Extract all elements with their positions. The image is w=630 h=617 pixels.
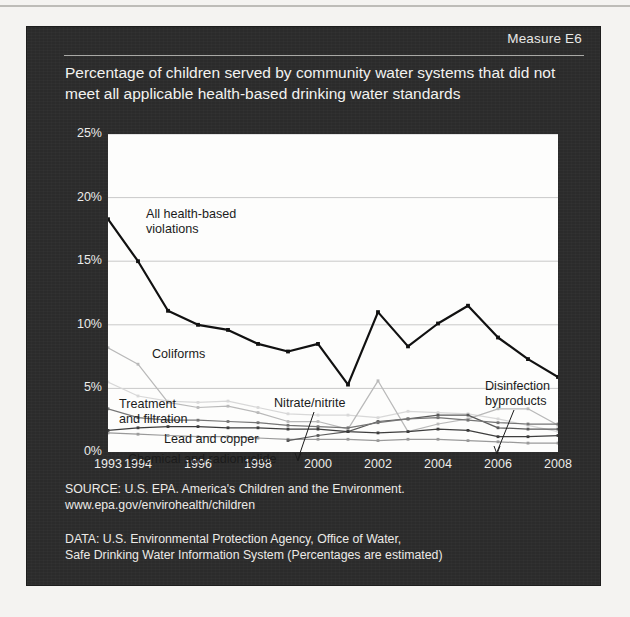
data-point <box>437 414 440 417</box>
data-point <box>317 414 320 417</box>
data-point <box>317 425 320 428</box>
data-point <box>407 430 410 433</box>
data-point <box>557 423 558 426</box>
data-point <box>227 420 230 423</box>
data-point <box>377 432 380 435</box>
y-tick-20: 20% <box>42 190 102 204</box>
data-point <box>287 420 290 423</box>
data-point <box>467 419 470 422</box>
data-point <box>226 328 230 332</box>
y-tick-10: 10% <box>42 317 102 331</box>
data-point <box>197 401 200 404</box>
data-point <box>257 406 260 409</box>
annotation-coliforms: Coliforms <box>152 347 205 362</box>
data-point <box>407 410 410 413</box>
annotation-all-health-based-violations: All health-based violations <box>146 207 236 236</box>
data-point <box>287 439 290 442</box>
data-note: DATA: U.S. Environmental Protection Agen… <box>65 532 443 563</box>
data-point <box>467 414 470 417</box>
data-point <box>197 419 200 422</box>
data-point <box>436 322 440 326</box>
data-point <box>137 433 140 436</box>
data-point <box>527 435 530 438</box>
annotation-nitrate-nitrite: Nitrate/nitrite <box>274 396 345 411</box>
data-point <box>316 342 320 346</box>
data-point <box>108 429 109 432</box>
data-point <box>497 418 500 421</box>
data-point <box>557 428 558 431</box>
data-point <box>527 423 530 426</box>
data-point <box>497 435 500 438</box>
data-point <box>406 345 410 349</box>
data-point <box>227 400 230 403</box>
data-point <box>437 438 440 441</box>
data-point <box>227 426 230 429</box>
data-point <box>407 438 410 441</box>
y-tick-15: 15% <box>42 253 102 267</box>
data-point <box>557 434 558 437</box>
data-point <box>137 426 140 429</box>
data-point <box>376 310 380 314</box>
data-point <box>166 309 170 313</box>
data-point <box>497 421 500 424</box>
annotation-treatment-and-filtration: Treatment and filtration <box>119 397 188 426</box>
data-point <box>347 426 350 429</box>
data-point <box>317 428 320 431</box>
y-tick-0: 0% <box>42 444 102 458</box>
data-point <box>257 426 260 429</box>
x-tick-2004: 2004 <box>424 457 452 471</box>
data-point <box>108 432 109 435</box>
page-top-edge <box>0 5 630 7</box>
data-point <box>287 428 290 431</box>
data-point <box>377 439 380 442</box>
data-point <box>136 259 140 263</box>
y-tick-5: 5% <box>42 380 102 394</box>
data-point <box>527 428 530 431</box>
data-point <box>467 439 470 442</box>
data-point <box>526 357 530 361</box>
arrowhead-nitrate <box>295 453 301 461</box>
data-point <box>556 375 558 379</box>
data-point <box>287 412 290 415</box>
data-point <box>557 442 558 445</box>
scanned-page: Measure E6 Percentage of children served… <box>0 0 630 617</box>
data-point <box>347 430 350 433</box>
annotation-lead-and-copper: Lead and copper <box>164 432 259 447</box>
data-point <box>377 421 380 424</box>
data-point <box>467 429 470 432</box>
data-point <box>317 434 320 437</box>
data-point <box>407 418 410 421</box>
x-tick-1993: 1993 <box>94 457 122 471</box>
data-point <box>137 363 140 366</box>
data-point <box>227 405 230 408</box>
data-point <box>437 416 440 419</box>
data-point <box>287 424 290 427</box>
data-point <box>286 350 290 354</box>
data-point <box>108 217 110 221</box>
data-point <box>317 438 320 441</box>
annotation-disinfection-byproducts: Disinfection byproducts <box>485 379 550 408</box>
x-tick-2000: 2000 <box>304 457 332 471</box>
y-tick-25: 25% <box>42 126 102 140</box>
data-point <box>346 383 350 387</box>
figure-panel: Measure E6 Percentage of children served… <box>27 27 600 585</box>
data-point <box>466 304 470 308</box>
data-point <box>496 336 500 340</box>
data-point <box>257 421 260 424</box>
data-point <box>317 420 320 423</box>
data-point <box>347 438 350 441</box>
data-point <box>108 346 109 349</box>
x-tick-2008: 2008 <box>544 457 572 471</box>
data-point <box>196 323 200 327</box>
x-tick-2002: 2002 <box>364 457 392 471</box>
data-point <box>257 411 260 414</box>
data-point <box>497 440 500 443</box>
data-point <box>437 428 440 431</box>
data-point <box>108 407 109 410</box>
data-point <box>256 342 260 346</box>
data-point <box>377 416 380 419</box>
source-note: SOURCE: U.S. EPA. America's Children and… <box>65 482 405 513</box>
x-tick-2006: 2006 <box>484 457 512 471</box>
data-point <box>437 411 440 414</box>
data-point <box>108 381 109 384</box>
